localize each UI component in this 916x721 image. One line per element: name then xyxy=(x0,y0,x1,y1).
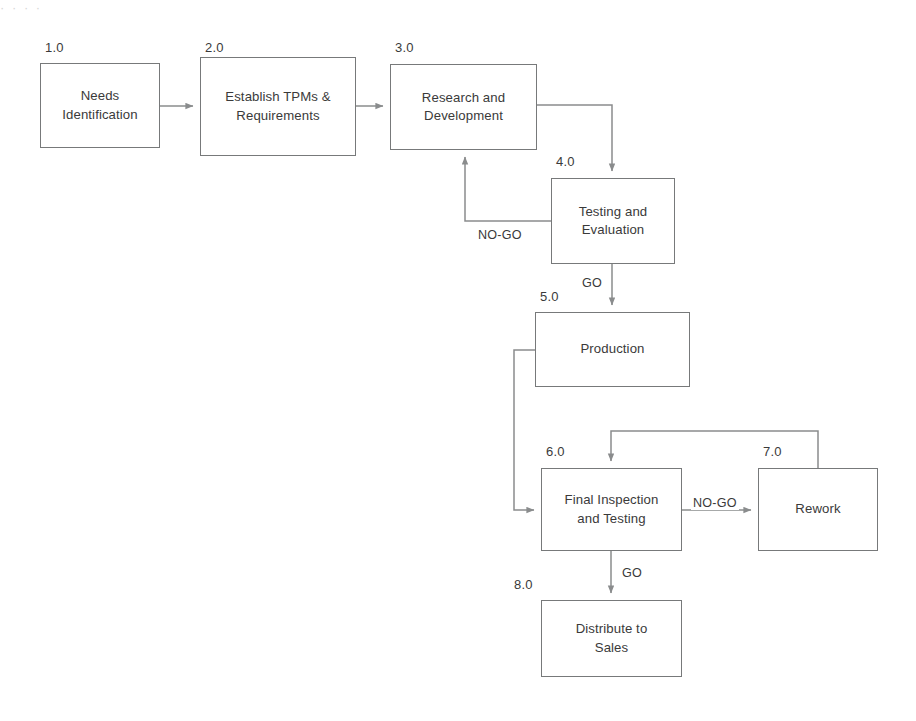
node-needs-identification[interactable]: Needs Identification xyxy=(40,63,160,148)
node-distribute-to-sales[interactable]: Distribute to Sales xyxy=(541,600,682,677)
node-id-8: 8.0 xyxy=(514,577,533,592)
edge-production-to-inspection xyxy=(514,350,535,510)
flowchart-canvas: · · · · xyxy=(0,0,916,721)
node-id-5: 5.0 xyxy=(540,289,559,304)
node-label: Testing and Evaluation xyxy=(573,203,654,239)
node-production[interactable]: Production xyxy=(535,312,690,387)
node-id-4: 4.0 xyxy=(556,154,575,169)
node-rework[interactable]: Rework xyxy=(758,468,878,551)
node-research-and-development[interactable]: Research and Development xyxy=(390,64,537,150)
edge-label-no-go-inspection: NO-GO xyxy=(691,496,739,510)
node-id-2: 2.0 xyxy=(205,40,224,55)
node-id-6: 6.0 xyxy=(546,444,565,459)
node-label: Final Inspection and Testing xyxy=(559,491,665,527)
edge-label-go-testing: GO xyxy=(580,276,604,290)
node-final-inspection-and-testing[interactable]: Final Inspection and Testing xyxy=(541,468,682,551)
edge-label-go-inspection: GO xyxy=(620,566,644,580)
node-label: Needs Identification xyxy=(56,87,143,123)
node-testing-and-evaluation[interactable]: Testing and Evaluation xyxy=(551,178,675,264)
node-label: Establish TPMs & Requirements xyxy=(219,88,336,124)
edge-rework-to-inspection xyxy=(611,431,818,468)
node-label: Rework xyxy=(789,500,846,518)
node-id-3: 3.0 xyxy=(395,40,414,55)
node-id-7: 7.0 xyxy=(763,444,782,459)
node-label: Distribute to Sales xyxy=(570,620,654,656)
node-label: Research and Development xyxy=(416,89,511,125)
node-establish-tpms-requirements[interactable]: Establish TPMs & Requirements xyxy=(200,57,356,156)
scan-artifact-strip: · · · · xyxy=(0,0,916,10)
edge-testing-nogo-to-rnd xyxy=(465,157,551,221)
node-label: Production xyxy=(574,340,650,358)
node-id-1: 1.0 xyxy=(45,40,64,55)
edge-label-no-go-testing: NO-GO xyxy=(476,228,524,242)
